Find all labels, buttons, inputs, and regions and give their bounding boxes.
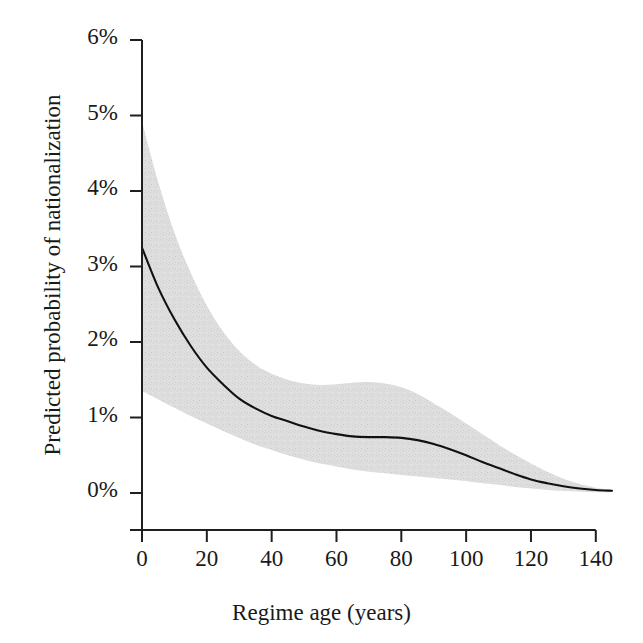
figure-container: 0%1%2%3%4%5%6% 020406080100120140 Predic… bbox=[0, 0, 643, 643]
y-tick-label: 0% bbox=[60, 477, 118, 503]
x-tick-label: 40 bbox=[242, 546, 302, 572]
x-tick-label: 120 bbox=[501, 546, 561, 572]
x-tick-label: 20 bbox=[177, 546, 237, 572]
x-axis-title: Regime age (years) bbox=[0, 600, 643, 626]
y-tick-label: 4% bbox=[60, 175, 118, 201]
y-axis-ticks bbox=[130, 40, 142, 493]
x-tick-label: 0 bbox=[112, 546, 172, 572]
x-tick-label: 80 bbox=[371, 546, 431, 572]
y-tick-label: 3% bbox=[60, 251, 118, 277]
x-axis-ticks bbox=[142, 530, 596, 542]
x-tick-label: 60 bbox=[306, 546, 366, 572]
x-tick-label: 140 bbox=[566, 546, 626, 572]
y-tick-label: 1% bbox=[60, 402, 118, 428]
y-tick-label: 2% bbox=[60, 326, 118, 352]
x-tick-label: 100 bbox=[436, 546, 496, 572]
y-tick-label: 6% bbox=[60, 24, 118, 50]
y-axis-title: Predicted probability of nationalization bbox=[40, 40, 66, 510]
y-tick-label: 5% bbox=[60, 100, 118, 126]
